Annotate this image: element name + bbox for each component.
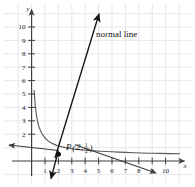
x-tick-label-10: 10 [162,167,170,175]
y-tick-label-6: 6 [22,77,26,85]
point-label-y-denominator: 2 [85,148,88,154]
x-tick-label-5: 5 [97,167,101,175]
y-tick-label-4: 4 [22,104,26,112]
x-tick-label-4: 4 [83,167,87,175]
y-tick-label-10: 10 [18,23,26,31]
graph-figure: 1 2 3 4 5 6 7 8 9 10 2 3 4 5 6 7 8 9 10 … [0,0,195,187]
y-tick-label-2: 2 [22,131,26,139]
y-tick-label-9: 9 [22,37,26,45]
y-tick-label-7: 7 [22,64,26,72]
normal-line-label: normal line [96,29,137,39]
plot-canvas: 1 2 3 4 5 6 7 8 9 10 2 3 4 5 6 7 8 9 10 … [0,0,195,187]
x-tick-label-7: 7 [124,167,128,175]
x-tick-label-3: 3 [70,167,74,175]
y-tick-label-3: 3 [22,117,26,125]
y-tick-label-5: 5 [22,90,26,98]
x-tick-label-1: 1 [43,167,47,175]
point-label-prefix: P [65,142,72,152]
point-label-paren-close: ) [89,143,93,153]
x-tick-label-6: 6 [110,167,114,175]
point-marker-p [56,152,61,157]
y-tick-label-8: 8 [22,50,26,58]
x-tick-label-2: 2 [57,167,61,175]
x-tick-label-9: 9 [150,167,154,175]
point-label-comma: , [81,142,83,152]
point-label-y-numerator: 1 [85,142,88,148]
